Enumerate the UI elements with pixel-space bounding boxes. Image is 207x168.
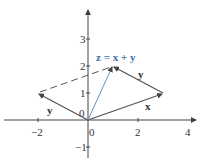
vector-x-label: x	[145, 100, 151, 112]
vectors	[39, 67, 163, 120]
x-tick-label-4: 4	[185, 126, 191, 138]
y-tick-label-neg1: −1	[75, 141, 87, 153]
x-tick-label-0: 0	[89, 126, 95, 138]
x-tick-label-neg2: −2	[31, 126, 43, 138]
y-tick-label-1: 1	[80, 87, 86, 99]
y-tick-label-2: 2	[80, 60, 86, 72]
vector-z-sum	[88, 67, 112, 120]
vector-diagram: −2 0 2 4 −1 0 1 2 3 z = x + y y x y	[0, 0, 207, 168]
vector-y-label-right: y	[138, 68, 144, 80]
x-tick-label-2: 2	[135, 126, 141, 138]
dashed-guide-line	[40, 67, 111, 92]
vector-y-label-left: y	[47, 104, 53, 116]
y-tick-label-3: 3	[80, 33, 86, 45]
sum-vector-label: z = x + y	[96, 51, 136, 63]
vector-x	[88, 94, 162, 120]
axes: −2 0 2 4 −1 0 1 2 3	[4, 10, 196, 158]
